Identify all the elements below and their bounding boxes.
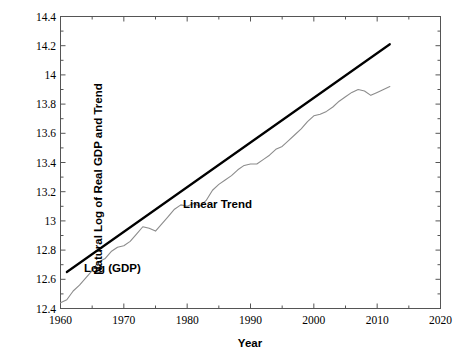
y-tick-label: 13.4 (14, 157, 56, 169)
y-tick-label: 14.4 (14, 11, 56, 23)
y-tick-label: 13.2 (14, 186, 56, 198)
y-tick-label: 13.8 (14, 98, 56, 110)
y-axis-title: Natural Log of Real GDP and Trend (92, 83, 104, 274)
x-tick-label: 1980 (176, 314, 199, 326)
x-tick-label: 2010 (366, 314, 389, 326)
x-tick-label: 2020 (429, 314, 452, 326)
x-tick-label: 2000 (302, 314, 325, 326)
series-annotation-linear-trend: Linear Trend (183, 198, 252, 210)
plot-canvas (0, 0, 462, 357)
y-tick-label: 14.2 (14, 40, 56, 52)
x-tick-label: 1990 (239, 314, 262, 326)
series-line-linear-trend (67, 44, 390, 272)
y-tick-label: 14 (14, 69, 56, 81)
y-tick-label: 12.8 (14, 244, 56, 256)
series-annotation-log-gdp: Log (GDP) (84, 262, 141, 274)
y-tick-label: 13 (14, 215, 56, 227)
x-tick-label: 1960 (49, 314, 72, 326)
y-tick-label: 12.6 (14, 273, 56, 285)
chart-container: 12.412.612.81313.213.413.613.81414.214.4… (0, 0, 462, 357)
x-axis-title: Year (238, 337, 262, 349)
x-tick-label: 1970 (112, 314, 135, 326)
y-tick-label: 13.6 (14, 127, 56, 139)
